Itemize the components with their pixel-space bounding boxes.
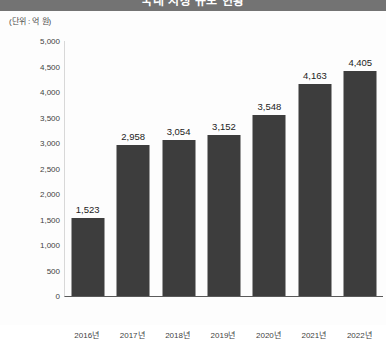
x-axis-tick-label: 2018년 bbox=[155, 329, 200, 340]
y-axis-tick-label: 0 bbox=[14, 292, 60, 301]
bar[interactable] bbox=[253, 115, 286, 296]
y-axis-tick-label: 3,500 bbox=[14, 113, 60, 122]
bar-value-label: 1,523 bbox=[76, 204, 100, 215]
bar[interactable] bbox=[71, 218, 104, 296]
bar-value-label: 3,054 bbox=[167, 126, 191, 137]
y-axis-ticks: 5,0004,5004,0003,5003,0002,5002,0001,500… bbox=[0, 41, 60, 296]
bar-value-label: 2,958 bbox=[121, 131, 145, 142]
x-axis-tick-label: 2022년 bbox=[337, 329, 382, 340]
chart-title-band: 국내 시장 규모 현황 bbox=[0, 0, 386, 11]
bar[interactable] bbox=[298, 84, 331, 296]
bar[interactable] bbox=[344, 71, 377, 296]
bar-chart: (단위 : 억 원) 5,0004,5004,0003,5003,0002,50… bbox=[0, 11, 386, 325]
x-axis-tick-label: 2016년 bbox=[64, 329, 109, 340]
x-axis-ticks: 2016년2017년2018년2019년2020년2021년2022년 bbox=[64, 41, 382, 81]
y-axis-tick-label: 500 bbox=[14, 266, 60, 275]
y-axis-tick-label: 2,000 bbox=[14, 190, 60, 199]
y-axis-tick-label: 4,000 bbox=[14, 88, 60, 97]
bar-value-label: 3,152 bbox=[212, 121, 236, 132]
bar[interactable] bbox=[117, 145, 150, 296]
x-axis-tick-label: 2020년 bbox=[246, 329, 291, 340]
x-axis-tick-label: 2019년 bbox=[200, 329, 245, 340]
y-axis-tick-label: 1,500 bbox=[14, 215, 60, 224]
bar[interactable] bbox=[207, 135, 240, 296]
y-axis-tick-label: 2,500 bbox=[14, 164, 60, 173]
x-axis-tick-label: 2021년 bbox=[291, 329, 336, 340]
y-axis-tick-label: 1,000 bbox=[14, 241, 60, 250]
y-axis-tick-label: 4,500 bbox=[14, 62, 60, 71]
x-axis-tick-label: 2017년 bbox=[109, 329, 154, 340]
bar-value-label: 3,548 bbox=[258, 101, 282, 112]
y-axis-tick-label: 5,000 bbox=[14, 37, 60, 46]
unit-label: (단위 : 억 원) bbox=[9, 15, 51, 26]
y-axis-tick-label: 3,000 bbox=[14, 139, 60, 148]
bar[interactable] bbox=[162, 140, 195, 296]
page-title: 국내 시장 규모 현황 bbox=[0, 0, 386, 8]
